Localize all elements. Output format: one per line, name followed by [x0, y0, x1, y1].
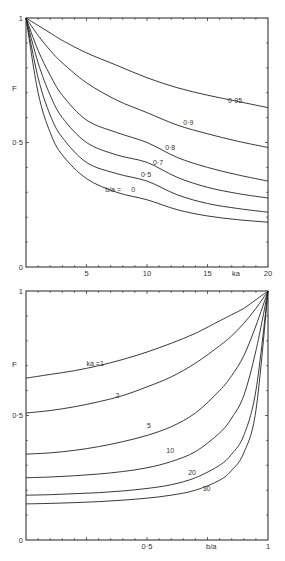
curve-30	[26, 291, 268, 504]
x-tick-label: 5	[84, 269, 88, 278]
curve-label: 0·9	[183, 119, 193, 126]
curve-20	[26, 291, 268, 495]
y-axis-label: F	[12, 84, 17, 93]
x-tick-label: 1	[266, 542, 270, 551]
chart-f-vs-ba: 0·5100·51 ka =125102030 F b/a	[12, 287, 270, 552]
curve-labels: 0·950·90·80·70·50b/a =	[105, 97, 242, 194]
curves	[26, 291, 268, 504]
figure: 510152000·51 0·950·90·80·70·50b/a = F ka…	[0, 0, 285, 561]
curve-label: 0·95	[228, 97, 242, 104]
curve-label: 0	[131, 186, 135, 193]
y-tick-label: 1	[19, 287, 23, 296]
x-axis-label: b/a	[206, 542, 217, 551]
tick-labels: 510152000·51	[12, 14, 272, 279]
x-tick-label: 10	[143, 269, 151, 278]
curve-0.5	[26, 18, 268, 212]
curve-1	[26, 291, 268, 378]
curve-label: 20	[188, 469, 196, 476]
chart-f-vs-ka: 510152000·51 0·950·90·80·70·50b/a = F ka	[12, 14, 272, 279]
x-axis-label: ka	[232, 269, 241, 278]
x-tick-label: 0·5	[142, 542, 153, 551]
y-tick-label: 0·5	[12, 411, 23, 420]
curve-0.9	[26, 18, 268, 147]
curve-label: 2	[116, 392, 120, 399]
y-tick-label: 1	[19, 14, 23, 23]
curve-labels: ka =125102030	[87, 360, 211, 493]
curve-label: 10	[166, 447, 174, 454]
y-axis-label: F	[12, 360, 17, 369]
curve-label: 0·5	[141, 171, 151, 178]
curve-label: 5	[147, 422, 151, 429]
curve-label: 0·8	[165, 144, 175, 151]
y-tick-label: 0	[19, 536, 23, 545]
x-tick-label: 20	[264, 269, 272, 278]
curve-label: 30	[203, 485, 211, 492]
y-tick-label: 0·5	[12, 138, 23, 147]
curves	[26, 18, 268, 222]
curve-label-prefix: b/a =	[105, 186, 121, 193]
curve-10	[26, 291, 268, 478]
x-tick-label: 15	[203, 269, 211, 278]
curve-label: 0·7	[153, 159, 163, 166]
curve-label: ka =1	[87, 360, 104, 367]
curve-0	[26, 18, 268, 222]
y-tick-label: 0	[19, 263, 23, 272]
